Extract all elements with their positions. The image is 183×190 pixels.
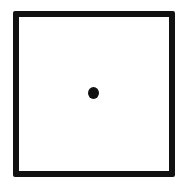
center-dot [88, 87, 99, 99]
diagram-canvas [0, 0, 183, 190]
